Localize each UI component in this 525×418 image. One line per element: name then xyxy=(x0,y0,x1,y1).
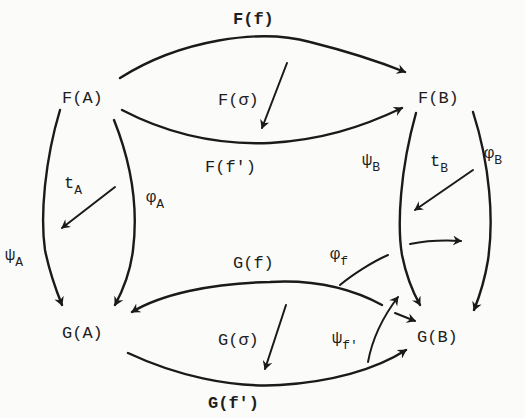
arrow-Gsigma xyxy=(265,305,286,369)
arrow-phiB xyxy=(473,112,491,310)
arrow-Gfp xyxy=(128,350,406,385)
label-Fsigma: F(σ) xyxy=(218,91,259,110)
arrow-psifp xyxy=(368,297,398,362)
arrow-Ff xyxy=(120,36,405,78)
arrow-tB xyxy=(415,170,473,210)
label-tA: tA xyxy=(64,174,82,198)
label-Gfp: G(f') xyxy=(208,394,259,413)
label-Ff: F(f) xyxy=(233,10,274,29)
label-Ffp: F(f') xyxy=(205,158,256,177)
arrow-Gf-to-GB xyxy=(395,313,415,321)
object-FB: F(B) xyxy=(418,89,459,108)
arrow-psiB-to-phiB xyxy=(410,240,461,244)
label-phif: φf xyxy=(330,245,348,269)
arrow-psiA xyxy=(43,110,62,305)
object-GB: G(B) xyxy=(417,328,458,347)
label-psiA: ψA xyxy=(5,246,23,270)
object-FA: F(A) xyxy=(62,89,103,108)
label-Gf: G(f) xyxy=(233,254,274,273)
label-psifp: ψf' xyxy=(332,329,358,353)
label-psiB: ψB xyxy=(362,151,380,175)
arrow-Fsigma xyxy=(262,63,287,128)
object-GA: G(A) xyxy=(62,324,103,343)
arrow-Gf xyxy=(132,282,382,312)
commutative-diagram: F(A) F(B) G(A) G(B) F(f) F(f') F(σ) ψA φ… xyxy=(0,0,525,418)
label-Gsigma: G(σ) xyxy=(218,331,259,350)
label-phiA: φA xyxy=(146,188,164,212)
arrow-phiA xyxy=(114,120,135,305)
label-tB: tB xyxy=(430,152,448,176)
arrow-tA xyxy=(62,187,115,228)
